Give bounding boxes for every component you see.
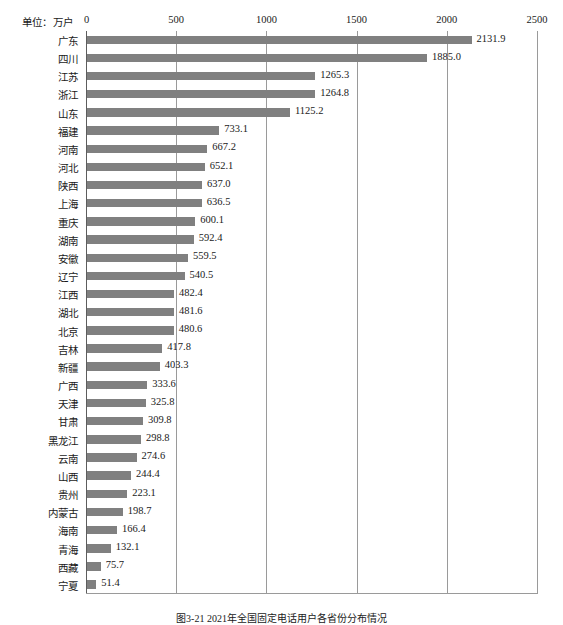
- bar-value-label: 481.6: [179, 305, 203, 316]
- bar-row: 75.7: [86, 558, 537, 576]
- category-label: 福建: [0, 124, 82, 139]
- bar: [87, 90, 315, 98]
- category-label: 辽宁: [0, 269, 82, 284]
- category-label: 河北: [0, 160, 82, 175]
- bar-value-label: 1264.8: [320, 87, 349, 98]
- category-label: 贵州: [0, 487, 82, 502]
- bar-value-label: 417.8: [167, 341, 191, 352]
- category-label: 内蒙古: [0, 505, 82, 520]
- bar: [87, 417, 143, 425]
- bar: [87, 290, 174, 298]
- bar-value-label: 480.6: [179, 323, 203, 334]
- bar-value-label: 325.8: [151, 396, 175, 407]
- bar-value-label: 637.0: [207, 178, 231, 189]
- bar: [87, 399, 146, 407]
- bar-row: 274.6: [86, 449, 537, 467]
- bar-row: 223.1: [86, 485, 537, 503]
- bar: [87, 254, 188, 262]
- bar-row: 51.4: [86, 576, 537, 594]
- bar-value-label: 198.7: [128, 505, 152, 516]
- category-label: 陕西: [0, 178, 82, 193]
- bar-value-label: 274.6: [142, 450, 166, 461]
- bar-row: 1265.3: [86, 67, 537, 85]
- bar-value-label: 333.6: [152, 378, 176, 389]
- bar-row: 417.8: [86, 340, 537, 358]
- bar: [87, 54, 427, 62]
- bar-value-label: 600.1: [200, 214, 224, 225]
- bar: [87, 145, 207, 153]
- bar-row: 298.8: [86, 431, 537, 449]
- bar: [87, 490, 127, 498]
- category-label: 浙江: [0, 87, 82, 102]
- category-label: 江西: [0, 287, 82, 302]
- bar-value-label: 309.8: [148, 414, 172, 425]
- category-label: 新疆: [0, 360, 82, 375]
- x-tick-label: 1000: [256, 14, 277, 25]
- bar-value-label: 298.8: [146, 432, 170, 443]
- bar-value-label: 652.1: [210, 160, 234, 171]
- bar-row: 244.4: [86, 467, 537, 485]
- x-axis-line: [86, 593, 537, 594]
- bar-value-label: 559.5: [193, 250, 217, 261]
- category-label: 河南: [0, 142, 82, 157]
- x-tick-label: 500: [168, 14, 184, 25]
- category-label: 甘肃: [0, 414, 82, 429]
- bar: [87, 235, 194, 243]
- bar: [87, 526, 117, 534]
- bar-row: 637.0: [86, 176, 537, 194]
- x-axis-tick-labels: 05001000150020002500: [0, 14, 563, 30]
- bar: [87, 471, 131, 479]
- bar: [87, 453, 137, 461]
- x-tick-label: 1500: [346, 14, 367, 25]
- category-label: 海南: [0, 523, 82, 538]
- bar: [87, 580, 96, 588]
- category-label: 湖南: [0, 233, 82, 248]
- bar: [87, 308, 174, 316]
- x-tick-label: 2000: [436, 14, 457, 25]
- category-label: 西藏: [0, 560, 82, 575]
- bar-value-label: 667.2: [212, 141, 236, 152]
- bar-row: 333.6: [86, 376, 537, 394]
- bar-value-label: 1885.0: [432, 51, 461, 62]
- bar-row: 1125.2: [86, 104, 537, 122]
- bar-value-label: 166.4: [122, 523, 146, 534]
- bar-row: 667.2: [86, 140, 537, 158]
- bar-value-label: 2131.9: [477, 33, 506, 44]
- figure-caption: 图3-21 2021年全国固定电话用户各省份分布情况: [0, 610, 563, 625]
- bar-row: 733.1: [86, 122, 537, 140]
- bar-row: 325.8: [86, 394, 537, 412]
- bar: [87, 126, 219, 134]
- bar-row: 559.5: [86, 249, 537, 267]
- bar: [87, 199, 202, 207]
- category-label: 青海: [0, 542, 82, 557]
- bar-row: 1885.0: [86, 49, 537, 67]
- bar: [87, 544, 111, 552]
- category-label: 江苏: [0, 69, 82, 84]
- x-tick-label: 0: [84, 14, 89, 25]
- bar-value-label: 733.1: [224, 123, 248, 134]
- bar: [87, 108, 290, 116]
- category-label: 重庆: [0, 215, 82, 230]
- bar: [87, 163, 205, 171]
- bar-row: 636.5: [86, 194, 537, 212]
- bar-row: 2131.9: [86, 31, 537, 49]
- bar: [87, 435, 141, 443]
- bar: [87, 72, 315, 80]
- category-label: 云南: [0, 451, 82, 466]
- bar: [87, 181, 202, 189]
- bar-value-label: 223.1: [132, 487, 156, 498]
- bar-value-label: 244.4: [136, 468, 160, 479]
- category-label: 广西: [0, 378, 82, 393]
- category-labels: 广东四川江苏浙江山东福建河南河北陕西上海重庆湖南安徽辽宁江西湖北北京吉林新疆广西…: [0, 31, 82, 594]
- category-label: 山东: [0, 106, 82, 121]
- bar-row: 652.1: [86, 158, 537, 176]
- bar: [87, 36, 472, 44]
- category-label: 四川: [0, 51, 82, 66]
- category-label: 湖北: [0, 305, 82, 320]
- bar-value-label: 1265.3: [320, 69, 349, 80]
- category-label: 天津: [0, 396, 82, 411]
- bar-value-label: 540.5: [190, 269, 214, 280]
- category-label: 广东: [0, 33, 82, 48]
- bar-row: 166.4: [86, 521, 537, 539]
